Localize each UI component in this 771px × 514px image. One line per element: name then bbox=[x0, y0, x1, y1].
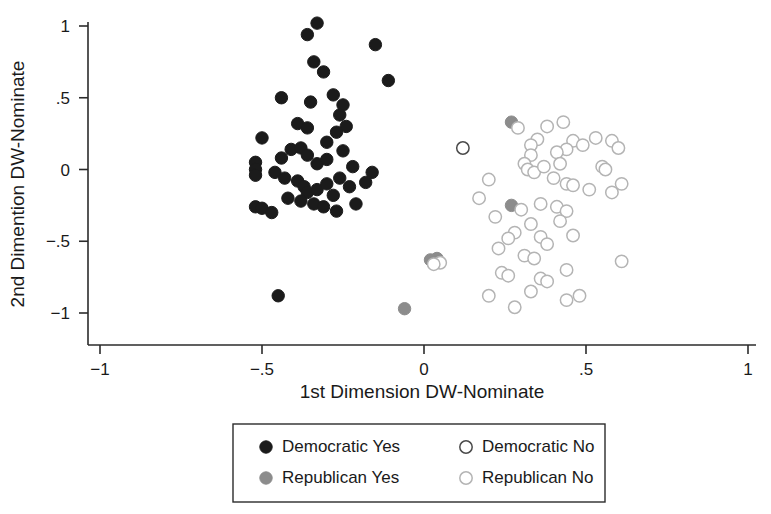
data-point bbox=[275, 152, 287, 164]
scatter-plot-figure: −1−.50.51 −1−.50.51 1st Dimension DW-Nom… bbox=[0, 0, 771, 514]
data-point bbox=[573, 290, 585, 302]
data-point bbox=[483, 173, 495, 185]
data-point bbox=[557, 116, 569, 128]
data-point bbox=[512, 122, 524, 134]
data-point bbox=[398, 302, 410, 314]
data-point bbox=[528, 252, 540, 264]
data-point bbox=[473, 192, 485, 204]
data-point bbox=[567, 229, 579, 241]
data-point bbox=[583, 183, 595, 195]
data-point bbox=[615, 255, 627, 267]
data-point bbox=[457, 142, 469, 154]
data-point bbox=[282, 192, 294, 204]
data-point bbox=[366, 166, 378, 178]
data-point bbox=[311, 17, 323, 29]
data-point bbox=[272, 290, 284, 302]
data-point bbox=[382, 74, 394, 86]
data-point bbox=[275, 92, 287, 104]
data-point bbox=[538, 160, 550, 172]
y-tick-label: 0 bbox=[61, 161, 70, 180]
data-point bbox=[334, 109, 346, 121]
x-tick-label: 0 bbox=[419, 360, 428, 379]
data-point bbox=[256, 132, 268, 144]
data-point bbox=[599, 163, 611, 175]
y-axis-title: 2nd Dimention DW-Nominate bbox=[7, 61, 28, 308]
legend-marker-republican-yes bbox=[260, 472, 272, 484]
data-point bbox=[308, 56, 320, 68]
data-point bbox=[492, 242, 504, 254]
data-point bbox=[489, 211, 501, 223]
x-tick-label: .5 bbox=[579, 360, 593, 379]
legend-frame bbox=[233, 424, 605, 502]
data-point bbox=[541, 275, 553, 287]
data-point bbox=[321, 136, 333, 148]
data-point bbox=[541, 120, 553, 132]
data-point bbox=[278, 172, 290, 184]
data-point bbox=[554, 215, 566, 227]
data-point bbox=[525, 218, 537, 230]
data-point bbox=[483, 290, 495, 302]
y-tick-label: −1 bbox=[51, 304, 70, 323]
data-point bbox=[551, 146, 563, 158]
data-point bbox=[428, 258, 440, 270]
data-point bbox=[369, 38, 381, 50]
x-tick-label: −1 bbox=[90, 360, 109, 379]
data-point bbox=[567, 179, 579, 191]
legend-marker-democratic-yes bbox=[260, 441, 272, 453]
legend-marker-republican-no bbox=[460, 472, 472, 484]
x-tick-label: 1 bbox=[743, 360, 752, 379]
legend-label-republican-no: Republican No bbox=[482, 468, 594, 487]
data-point bbox=[327, 189, 339, 201]
y-tick-label: −.5 bbox=[46, 232, 70, 251]
data-point bbox=[554, 158, 566, 170]
data-point bbox=[317, 66, 329, 78]
data-point bbox=[321, 153, 333, 165]
data-point bbox=[547, 172, 559, 184]
data-point bbox=[502, 232, 514, 244]
data-point bbox=[577, 139, 589, 151]
data-point bbox=[301, 122, 313, 134]
legend: Democratic YesDemocratic NoRepublican Ye… bbox=[233, 424, 605, 502]
data-point bbox=[509, 301, 521, 313]
legend-label-democratic-no: Democratic No bbox=[482, 437, 594, 456]
data-point bbox=[515, 203, 527, 215]
data-point bbox=[347, 160, 359, 172]
data-point bbox=[612, 142, 624, 154]
data-point bbox=[560, 294, 572, 306]
legend-marker-democratic-no bbox=[460, 441, 472, 453]
x-tick-label: −.5 bbox=[250, 360, 274, 379]
data-point bbox=[350, 198, 362, 210]
data-point bbox=[327, 89, 339, 101]
data-point bbox=[334, 172, 346, 184]
data-point bbox=[606, 186, 618, 198]
data-point bbox=[249, 169, 261, 181]
data-point bbox=[304, 96, 316, 108]
data-point bbox=[301, 28, 313, 40]
data-point bbox=[502, 269, 514, 281]
data-point bbox=[337, 145, 349, 157]
series-democratic-no bbox=[457, 142, 469, 154]
legend-label-democratic-yes: Democratic Yes bbox=[282, 437, 400, 456]
data-point bbox=[321, 178, 333, 190]
data-point bbox=[317, 201, 329, 213]
data-point bbox=[295, 195, 307, 207]
data-point bbox=[343, 181, 355, 193]
data-point bbox=[534, 198, 546, 210]
data-point bbox=[525, 285, 537, 297]
data-point bbox=[330, 205, 342, 217]
data-point bbox=[560, 264, 572, 276]
y-tick-label: 1 bbox=[61, 17, 70, 36]
data-point bbox=[301, 149, 313, 161]
y-tick-label: .5 bbox=[56, 89, 70, 108]
legend-label-republican-yes: Republican Yes bbox=[282, 468, 399, 487]
data-point bbox=[541, 238, 553, 250]
data-point bbox=[330, 126, 342, 138]
data-point bbox=[590, 132, 602, 144]
x-axis-title: 1st Dimension DW-Nominate bbox=[300, 381, 545, 402]
data-point bbox=[266, 206, 278, 218]
